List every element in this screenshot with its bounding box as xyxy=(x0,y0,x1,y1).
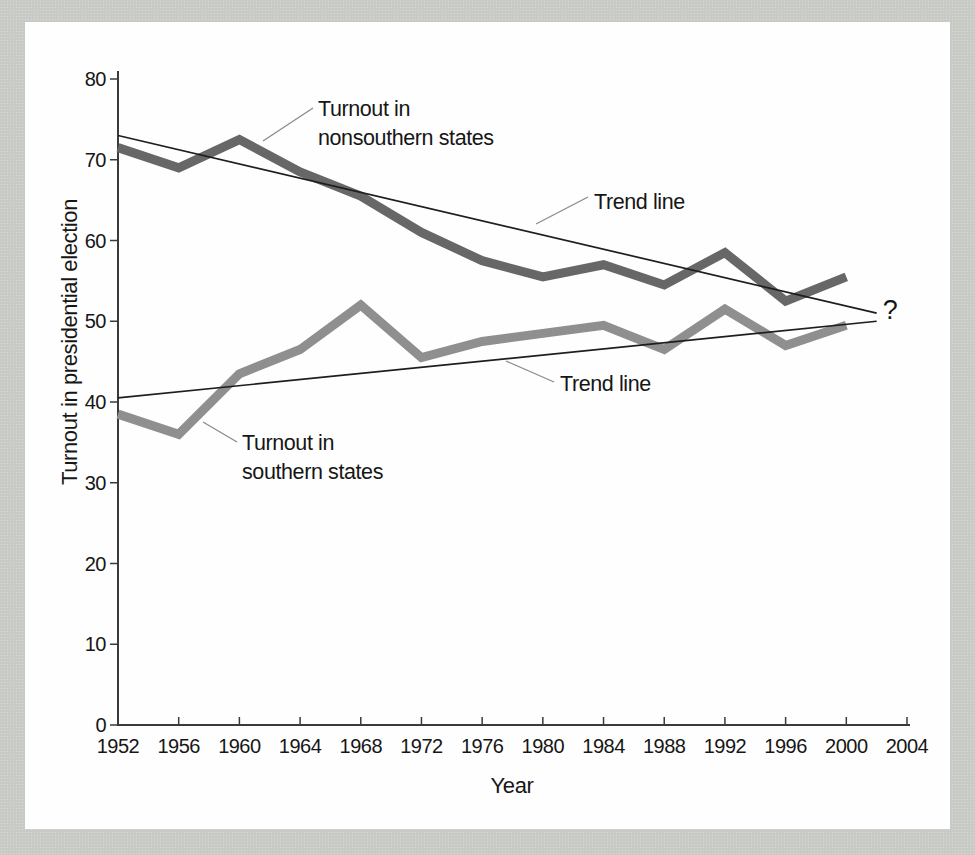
x-tick-label: 1956 xyxy=(157,735,200,757)
page: { "figure": { "background_color": "#cacd… xyxy=(0,0,975,855)
x-tick-label: 1968 xyxy=(340,735,383,757)
x-tick-label: 2000 xyxy=(825,735,868,757)
y-tick-label: 20 xyxy=(85,553,107,575)
y-tick-label: 80 xyxy=(85,68,107,90)
y-tick-label: 0 xyxy=(95,714,106,736)
x-tick-label: 1980 xyxy=(522,735,565,757)
y-tick-label: 60 xyxy=(85,230,107,252)
x-tick-label: 1976 xyxy=(461,735,504,757)
x-tick-label: 1996 xyxy=(764,735,807,757)
x-tick-label: 2004 xyxy=(886,735,929,757)
x-tick-label: 1960 xyxy=(218,735,261,757)
y-tick-label: 30 xyxy=(85,472,107,494)
x-tick-label: 1972 xyxy=(400,735,443,757)
y-tick-label: 50 xyxy=(85,310,107,332)
x-tick-label: 1952 xyxy=(97,735,140,757)
x-tick-label: 1984 xyxy=(582,735,625,757)
x-tick-label: 1988 xyxy=(643,735,686,757)
y-tick-label: 40 xyxy=(85,391,107,413)
x-tick-label: 1992 xyxy=(704,735,747,757)
y-tick-label: 70 xyxy=(85,149,107,171)
turnout-line-chart: 0102030405060708019521956196019641968197… xyxy=(0,0,975,855)
x-tick-label: 1964 xyxy=(279,735,322,757)
y-tick-label: 10 xyxy=(85,633,107,655)
